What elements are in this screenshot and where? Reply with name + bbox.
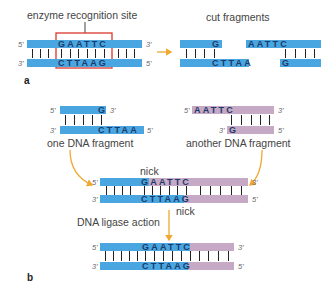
- nick-top-label: nick: [140, 165, 159, 177]
- nick-bottom-label: nick: [176, 205, 195, 217]
- fragment-one-label: one DNA fragment: [47, 137, 133, 149]
- cut-fragments-label: cut fragments: [206, 11, 270, 23]
- panel-b-letter: b: [27, 272, 33, 283]
- fragment-two-label: another DNA fragment: [186, 137, 290, 149]
- recognition-site-label: enzyme recognition site: [27, 9, 137, 21]
- panel-a-letter: a: [24, 75, 30, 86]
- ligase-action-label: DNA ligase action: [77, 216, 160, 228]
